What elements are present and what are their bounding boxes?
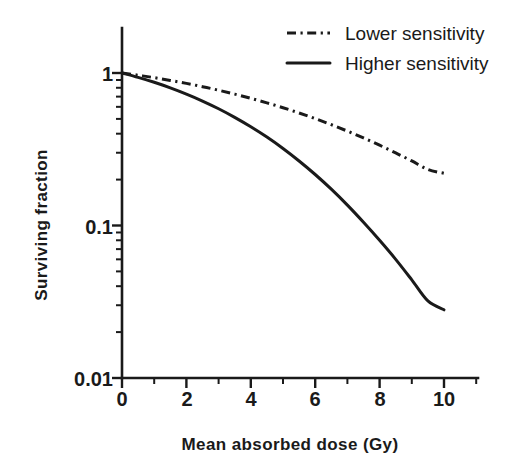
y-axis-title: Surviving fraction: [32, 149, 51, 301]
y-tick-label-0.01: 0.01: [74, 368, 113, 390]
legend-label-higher-sensitivity: Higher sensitivity: [345, 53, 489, 74]
x-tick-label-4: 4: [245, 388, 257, 410]
x-tick-label-8: 8: [374, 388, 385, 410]
x-axis-title: Mean absorbed dose (Gy): [181, 435, 398, 454]
y-tick-label-1: 1: [102, 63, 113, 85]
legend-label-lower-sensitivity: Lower sensitivity: [345, 23, 485, 44]
x-tick-label-10: 10: [433, 388, 455, 410]
x-tick-label-0: 0: [116, 388, 127, 410]
x-tick-label-2: 2: [181, 388, 192, 410]
chart-canvas: 1 0.1 0.01 0 2 4 6 8 10 Surviving fracti…: [0, 0, 511, 474]
y-tick-label-0.1: 0.1: [85, 216, 113, 238]
x-tick-label-6: 6: [309, 388, 320, 410]
survival-curve-figure: 1 0.1 0.01 0 2 4 6 8 10 Surviving fracti…: [0, 0, 511, 474]
